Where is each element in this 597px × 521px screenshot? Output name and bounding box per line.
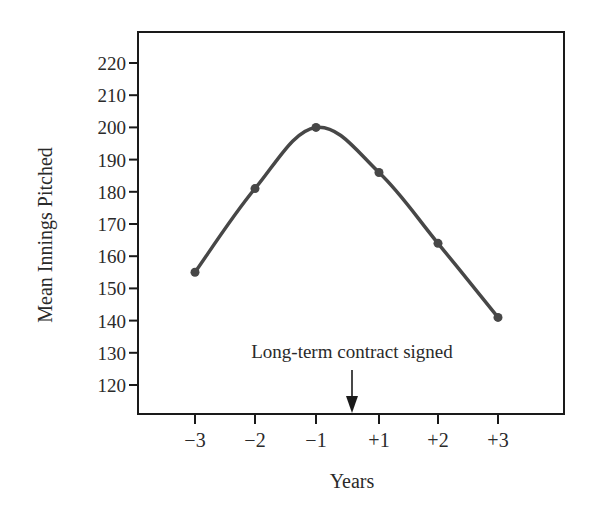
data-points (191, 123, 503, 322)
y-tick-label: 180 (98, 182, 127, 203)
y-tick-label: 220 (98, 53, 127, 74)
x-tick-label: −1 (305, 429, 326, 451)
x-tick-label: +1 (368, 429, 389, 451)
data-point (375, 168, 384, 177)
annotation-label: Long-term contract signed (251, 341, 453, 362)
x-tick-label: +2 (427, 429, 448, 451)
y-tick-label: 140 (98, 311, 127, 332)
data-point (191, 268, 200, 277)
line-chart: 120130140150160170180190200210220 −3−2−1… (0, 0, 597, 521)
data-point (434, 239, 443, 248)
y-tick-label: 200 (98, 117, 127, 138)
y-tick-label: 120 (98, 375, 127, 396)
down-arrow-icon (346, 370, 358, 413)
y-tick-label: 170 (98, 214, 127, 235)
x-axis-label: Years (330, 470, 375, 492)
y-axis-label: Mean Innings Pitched (34, 147, 57, 323)
data-point (312, 123, 321, 132)
data-line (195, 127, 498, 317)
y-tick-label: 160 (98, 246, 127, 267)
x-axis: −3−2−1+1+2+3 (184, 414, 508, 451)
y-axis: 120130140150160170180190200210220 (98, 53, 139, 396)
y-tick-label: 150 (98, 278, 127, 299)
x-tick-label: −3 (184, 429, 205, 451)
x-tick-label: +3 (487, 429, 508, 451)
y-tick-label: 190 (98, 150, 127, 171)
y-tick-label: 210 (98, 85, 127, 106)
y-tick-label: 130 (98, 343, 127, 364)
data-point (251, 184, 260, 193)
data-point (494, 313, 503, 322)
x-tick-label: −2 (244, 429, 265, 451)
